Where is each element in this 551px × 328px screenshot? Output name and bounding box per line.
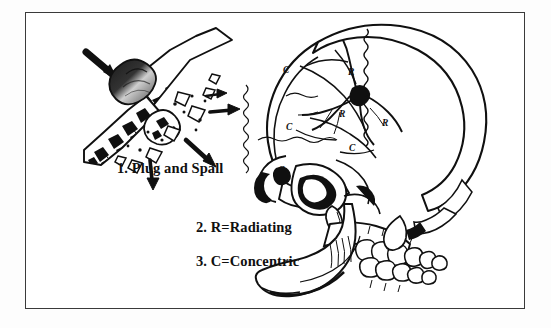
lateral-skull-diagram: R R R C C C C <box>0 0 551 328</box>
facial-skeleton <box>254 156 380 215</box>
marker-C-4: C <box>278 165 285 175</box>
marker-R-2: R <box>338 109 345 119</box>
marker-C-3: C <box>349 143 356 153</box>
marker-C-1: C <box>283 65 290 75</box>
legend-item-radiating: 2. R=Radiating <box>196 219 292 236</box>
marker-C-2: C <box>286 122 293 132</box>
mastoid-process <box>384 216 407 250</box>
marker-R-3: R <box>381 118 388 128</box>
legend-item-plug-and-spall: 1. Plug and Spall <box>117 160 223 177</box>
marker-R-1: R <box>347 67 354 77</box>
figure-root: R R R C C C C 1. Plug and Spall 2. R=Rad… <box>0 0 551 328</box>
legend-item-concentric: 3. C=Concentric <box>196 253 299 270</box>
